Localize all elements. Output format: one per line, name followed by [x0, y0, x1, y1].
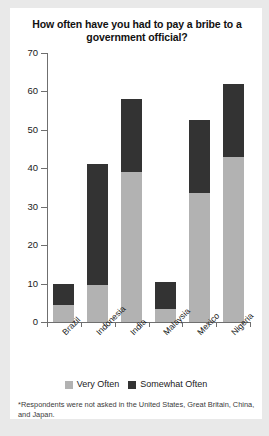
bar-segment-somewhat-often	[121, 99, 142, 172]
y-tick-label: 10	[16, 279, 38, 289]
bar-segment-somewhat-often	[155, 282, 176, 309]
bar-nigeria	[223, 84, 244, 322]
y-tick-mark	[41, 130, 47, 131]
bar-segment-somewhat-often	[189, 120, 210, 193]
y-tick-mark	[41, 207, 47, 208]
y-tick-label: 30	[16, 202, 38, 212]
bar-segment-very-often	[189, 193, 210, 322]
bar-segment-very-often	[121, 172, 142, 322]
bar-india	[121, 99, 142, 322]
chart-card: How often have you had to pay a bribe to…	[10, 8, 262, 419]
y-tick-label: 0	[16, 317, 38, 327]
y-tick-mark	[41, 168, 47, 169]
bar-segment-very-often	[87, 285, 108, 322]
bar-indonesia	[87, 164, 108, 322]
y-tick-label: 50	[16, 125, 38, 135]
bar-mexico	[189, 120, 210, 322]
plot-area: 010203040506070 BrazilIndonesiaIndiaMala…	[10, 8, 262, 419]
legend-item-somewhat-often: Somewhat Often	[128, 380, 207, 389]
x-tick-mark	[149, 322, 150, 327]
chart-legend: Very Often Somewhat Often	[10, 380, 262, 389]
y-axis-line	[47, 53, 48, 323]
y-tick-label: 70	[16, 48, 38, 58]
legend-label-somewhat-often: Somewhat Often	[140, 380, 207, 389]
y-tick-label: 20	[16, 240, 38, 250]
y-tick-label: 40	[16, 163, 38, 173]
legend-swatch-icon-very-often	[65, 381, 73, 389]
legend-swatch-icon-somewhat-often	[128, 381, 136, 389]
bar-segment-somewhat-often	[223, 84, 244, 157]
bar-segment-very-often	[223, 157, 244, 322]
y-tick-mark	[41, 284, 47, 285]
bar-brazil	[53, 284, 74, 322]
y-tick-mark	[41, 245, 47, 246]
bar-segment-somewhat-often	[53, 284, 74, 305]
chart-footnote: *Respondents were not asked in the Unite…	[18, 400, 258, 419]
x-tick-mark	[47, 322, 48, 327]
y-tick-mark	[41, 53, 47, 54]
legend-item-very-often: Very Often	[65, 380, 120, 389]
legend-label-very-often: Very Often	[77, 380, 120, 389]
bar-malaysia	[155, 282, 176, 322]
x-tick-mark	[182, 322, 183, 327]
y-tick-mark	[41, 91, 47, 92]
bar-segment-somewhat-often	[87, 164, 108, 285]
y-tick-label: 60	[16, 86, 38, 96]
